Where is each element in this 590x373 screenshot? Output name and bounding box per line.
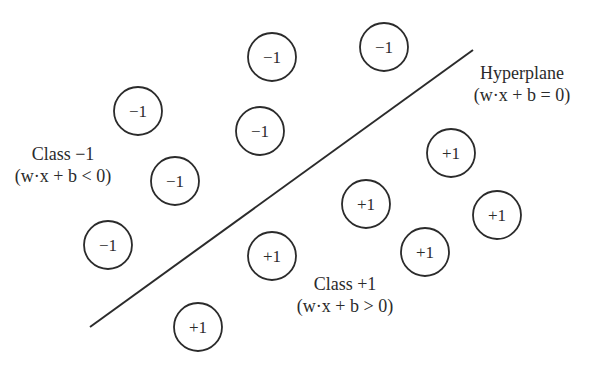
point-class-neg: −1 [248, 33, 296, 81]
point-class-neg: −1 [360, 23, 408, 71]
point-class-neg: −1 [236, 107, 284, 155]
class-pos-condition: (w·x + b > 0) [297, 296, 393, 317]
point-label: +1 [442, 144, 460, 163]
class-neg-label: Class −1 [32, 144, 95, 164]
point-label: −1 [166, 172, 184, 191]
point-class-neg: −1 [84, 221, 132, 269]
point-label: +1 [189, 318, 207, 337]
point-class-pos: +1 [174, 303, 222, 351]
point-class-neg: −1 [151, 157, 199, 205]
point-class-pos: +1 [342, 180, 390, 228]
point-label: +1 [263, 247, 281, 266]
point-class-pos: +1 [427, 129, 475, 177]
point-class-pos: +1 [473, 191, 521, 239]
class-neg-condition: (w·x + b < 0) [15, 166, 111, 187]
point-label: +1 [357, 195, 375, 214]
class-pos-label: Class +1 [314, 274, 377, 294]
point-label: −1 [129, 102, 147, 121]
point-label: +1 [416, 243, 434, 262]
point-class-neg: −1 [114, 87, 162, 135]
point-class-pos: +1 [401, 228, 449, 276]
point-label: −1 [99, 236, 117, 255]
hyperplane-equation: (w·x + b = 0) [474, 85, 570, 106]
point-class-pos: +1 [248, 232, 296, 280]
point-label: −1 [263, 48, 281, 67]
point-label: −1 [251, 122, 269, 141]
svm-diagram: −1−1−1−1−1−1+1+1+1+1+1+1 Class −1 (w·x +… [0, 0, 590, 373]
hyperplane-label: Hyperplane [480, 63, 564, 83]
point-label: +1 [488, 206, 506, 225]
point-label: −1 [375, 38, 393, 57]
